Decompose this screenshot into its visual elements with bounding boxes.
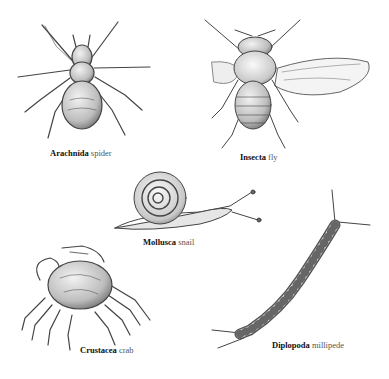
crab-common-name: crab: [119, 345, 134, 355]
crab-illustration: [22, 246, 150, 350]
millipede-caption: Diplopoda millipede: [272, 340, 344, 350]
spider-class-name: Arachnida: [50, 148, 89, 158]
snail-class-name: Mollusca: [143, 237, 176, 247]
millipede-class-name: Diplopoda: [272, 340, 310, 350]
crab-class-name: Crustacea: [80, 345, 117, 355]
millipede-illustration: [212, 190, 370, 348]
fly-illustration: [205, 20, 369, 148]
fly-common-name: fly: [268, 152, 277, 162]
fly-caption: Insecta fly: [240, 152, 278, 162]
snail-illustration: [115, 172, 261, 229]
snail-caption: Mollusca snail: [143, 237, 194, 247]
fly-class-name: Insecta: [240, 152, 266, 162]
millipede-common-name: millipede: [312, 340, 344, 350]
spider-illustration: [18, 22, 150, 138]
snail-common-name: snail: [178, 237, 194, 247]
crab-caption: Crustacea crab: [80, 345, 134, 355]
spider-caption: Arachnida spider: [50, 148, 112, 158]
illustration-canvas: [0, 0, 389, 379]
spider-common-name: spider: [91, 148, 112, 158]
